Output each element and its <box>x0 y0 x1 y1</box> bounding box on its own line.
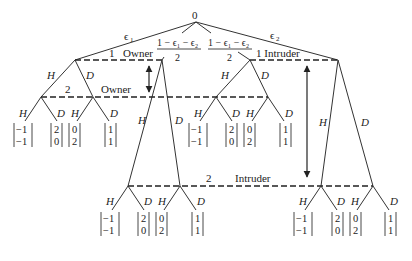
svg-text:2: 2 <box>54 124 59 135</box>
fraction-label-left: 1 − ϵ₁ − ϵ₂ 2 <box>157 37 201 63</box>
svg-text:0: 0 <box>247 124 252 135</box>
payoff-upper-6: 2 0 <box>226 123 237 147</box>
action-H: H <box>70 107 80 119</box>
payoff-upper-2: 2 0 <box>51 123 62 147</box>
svg-text:1: 1 <box>388 213 393 224</box>
svg-text:1: 1 <box>130 36 134 44</box>
info-set-intruder-2-num: 2 <box>206 172 212 184</box>
action-D: D <box>260 69 269 81</box>
svg-text:2: 2 <box>175 52 180 63</box>
subtree-C-D: H D <box>245 97 293 121</box>
svg-text:1: 1 <box>283 136 288 147</box>
svg-text:2: 2 <box>229 124 234 135</box>
svg-text:2: 2 <box>141 213 146 224</box>
action-D: D <box>196 195 205 207</box>
info-set-intruder-2-name: Intruder <box>235 172 271 184</box>
svg-text:1: 1 <box>283 124 288 135</box>
branch-mid-right-lower <box>238 52 250 60</box>
svg-text:0: 0 <box>141 225 146 236</box>
info-set-intruder-1-label: 1 Intruder <box>256 47 300 59</box>
eps2-label: ϵ 2 <box>270 29 280 43</box>
svg-text:−1: −1 <box>16 136 27 147</box>
svg-text:1: 1 <box>108 124 113 135</box>
action-H: H <box>350 195 360 207</box>
svg-text:−1: −1 <box>191 136 202 147</box>
action-D: D <box>109 107 118 119</box>
action-D: D <box>174 114 183 126</box>
action-D: D <box>85 69 94 81</box>
action-H: H <box>46 69 56 81</box>
action-D: D <box>389 195 398 207</box>
svg-text:ϵ: ϵ <box>270 29 275 41</box>
subtree-A-H: H D <box>18 97 65 121</box>
game-tree-diagram: 0 ϵ 1 ϵ 2 1 − ϵ₁ − ϵ₂ 2 1 − ϵ₁ − ϵ₂ 2 1 … <box>0 0 412 261</box>
info-set-owner-2-name: Owner <box>101 83 131 95</box>
svg-text:2: 2 <box>72 136 77 147</box>
payoff-upper-7: 0 2 <box>244 123 255 147</box>
svg-text:1: 1 <box>195 213 200 224</box>
action-H: H <box>318 116 328 128</box>
action-H: H <box>193 107 203 119</box>
payoff-upper-5: −1 −1 <box>189 123 207 147</box>
subtree-B-D: H D <box>157 186 205 210</box>
svg-text:1: 1 <box>108 136 113 147</box>
payoff-upper-3: 0 2 <box>69 123 80 147</box>
svg-text:−1: −1 <box>296 225 307 236</box>
root-node-label: 0 <box>192 9 198 21</box>
action-H: H <box>298 195 308 207</box>
svg-text:0: 0 <box>159 213 164 224</box>
payoff-upper-8: 1 1 <box>280 123 291 147</box>
action-H: H <box>245 107 255 119</box>
action-D: D <box>143 195 152 207</box>
payoff-upper-1: −1 −1 <box>14 123 32 147</box>
subtree-C-H: H D <box>193 97 240 121</box>
svg-text:2: 2 <box>335 213 340 224</box>
payoff-lower-6: 2 0 <box>332 212 343 236</box>
svg-text:−1: −1 <box>103 213 114 224</box>
svg-text:1 − ϵ₁ − ϵ₂: 1 − ϵ₁ − ϵ₂ <box>208 37 249 48</box>
subtree-D-H: H D <box>298 186 345 210</box>
action-H: H <box>157 195 167 207</box>
svg-text:0: 0 <box>54 136 59 147</box>
action-H: H <box>220 69 230 81</box>
svg-text:2: 2 <box>247 136 252 147</box>
eps1-label: ϵ 1 <box>124 30 134 44</box>
svg-text:2: 2 <box>276 35 280 43</box>
svg-text:1: 1 <box>388 225 393 236</box>
info-set-owner-1-num: 1 <box>109 47 115 59</box>
fraction-label-right: 1 − ϵ₁ − ϵ₂ 2 <box>208 37 252 63</box>
payoff-lower-5: −1 −1 <box>294 212 312 236</box>
action-D: D <box>56 107 65 119</box>
svg-text:0: 0 <box>229 136 234 147</box>
svg-text:2: 2 <box>353 225 358 236</box>
svg-text:0: 0 <box>72 124 77 135</box>
subtree-D-D: H D <box>350 186 398 210</box>
payoff-upper-4: 1 1 <box>105 123 116 147</box>
action-D: D <box>360 116 369 128</box>
branch-mid-left <box>182 22 196 33</box>
svg-text:−1: −1 <box>16 124 27 135</box>
payoff-lower-8: 1 1 <box>385 212 396 236</box>
svg-text:ϵ: ϵ <box>124 30 129 42</box>
action-H: H <box>105 195 115 207</box>
svg-text:1: 1 <box>195 225 200 236</box>
svg-text:1 − ϵ₁ − ϵ₂: 1 − ϵ₁ − ϵ₂ <box>157 37 198 48</box>
subtree-A-D: H D <box>70 97 118 121</box>
svg-text:2: 2 <box>227 52 232 63</box>
svg-text:2: 2 <box>159 225 164 236</box>
payoff-lower-7: 0 2 <box>350 212 361 236</box>
action-H: H <box>137 114 147 126</box>
svg-text:0: 0 <box>335 225 340 236</box>
branch-mid-left-lower <box>162 57 164 60</box>
subtree-B-H: H D <box>105 186 152 210</box>
action-H: H <box>18 107 28 119</box>
svg-text:−1: −1 <box>191 124 202 135</box>
svg-text:−1: −1 <box>296 213 307 224</box>
action-D: D <box>284 107 293 119</box>
action-D: D <box>231 107 240 119</box>
action-D: D <box>336 195 345 207</box>
payoff-lower-4: 1 1 <box>192 212 203 236</box>
info-set-owner-2-num: 2 <box>65 83 71 95</box>
payoff-lower-1: −1 −1 <box>101 212 119 236</box>
payoff-lower-3: 0 2 <box>156 212 167 236</box>
